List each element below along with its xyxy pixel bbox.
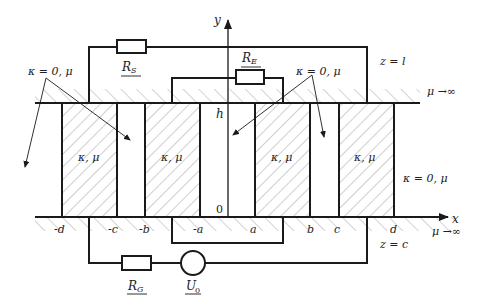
voltage-source-icon — [181, 251, 205, 275]
svg-text:κ, μ: κ, μ — [160, 151, 182, 164]
h-label: h — [216, 107, 224, 121]
label-resistor-s: R S — [121, 60, 141, 76]
svg-text:κ, μ: κ, μ — [77, 151, 99, 164]
svg-text:d: d — [390, 223, 397, 236]
svg-text:κ, μ: κ, μ — [353, 151, 375, 164]
resistor-s — [117, 40, 146, 53]
label-resistor-e: R E — [241, 51, 261, 67]
resistor-g — [122, 256, 151, 270]
svg-text:R: R — [121, 60, 131, 74]
bottom-mu-label: μ →∞ — [432, 225, 461, 238]
x-axis-label: x — [452, 212, 459, 226]
svg-text:R: R — [241, 51, 251, 65]
electrode-diagram: y x h 0 z = l μ →∞ z = c μ →∞ -d -c -b -… — [0, 0, 486, 307]
svg-text:-d: -d — [54, 223, 65, 236]
svg-text:a: a — [250, 223, 257, 236]
label-resistor-g: R G — [127, 279, 147, 294]
svg-text:c: c — [334, 223, 340, 236]
svg-text:κ, μ: κ, μ — [270, 151, 292, 164]
label-source: U 0 — [185, 279, 201, 295]
svg-text:-c: -c — [108, 223, 118, 236]
z-l-label: z = l — [379, 55, 406, 68]
y-axis-label: y — [213, 13, 221, 27]
top-mu-label: μ →∞ — [427, 85, 456, 98]
svg-text:-a: -a — [193, 223, 203, 236]
z-c-label: z = c — [379, 238, 408, 251]
svg-text:-b: -b — [139, 223, 150, 236]
air-label-left: κ = 0, μ — [27, 65, 73, 78]
svg-text:E: E — [250, 57, 257, 66]
svg-text:R: R — [127, 279, 137, 293]
air-label-mid: κ = 0, μ — [295, 65, 341, 78]
svg-text:b: b — [307, 223, 314, 236]
resistor-e — [236, 70, 264, 84]
svg-text:G: G — [137, 285, 144, 294]
air-label-right: κ = 0, μ — [402, 172, 448, 185]
origin-label: 0 — [216, 203, 223, 216]
block-labels: κ, μ κ, μ κ, μ κ, μ — [77, 151, 375, 164]
svg-text:S: S — [131, 66, 137, 75]
